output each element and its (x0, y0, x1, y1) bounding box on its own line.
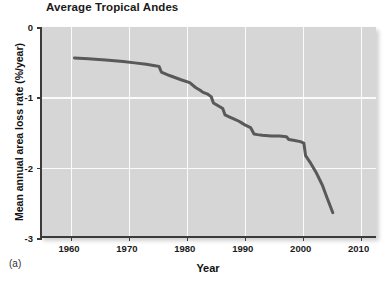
y-axis-tick-label: -1 (7, 92, 33, 103)
x-axis-title: Year (40, 262, 376, 274)
y-axis-tick-label: -3 (7, 233, 33, 244)
x-axis-tick-label: 2000 (290, 243, 311, 254)
x-axis-tick-label: 2010 (348, 243, 369, 254)
x-axis-tick-label: 1980 (174, 243, 195, 254)
panel-label: (a) (9, 258, 21, 269)
y-axis-tick-label: 0 (7, 22, 33, 33)
series-line-chart (42, 27, 378, 238)
x-axis-tick-label: 1970 (116, 243, 137, 254)
x-axis-tick-label: 1990 (232, 243, 253, 254)
chart-title: Average Tropical Andes (46, 1, 178, 13)
y-axis-tick (37, 238, 42, 240)
x-axis-tick-label: 1960 (58, 243, 79, 254)
plot-frame (40, 27, 376, 238)
figure-panel: Average Tropical Andes Mean annual area … (0, 0, 385, 281)
y-axis-title: Mean annual area loss rate (%/year) (13, 27, 25, 237)
y-axis-tick-label: -2 (7, 162, 33, 173)
series-line-average-tropical-andes (74, 58, 332, 213)
